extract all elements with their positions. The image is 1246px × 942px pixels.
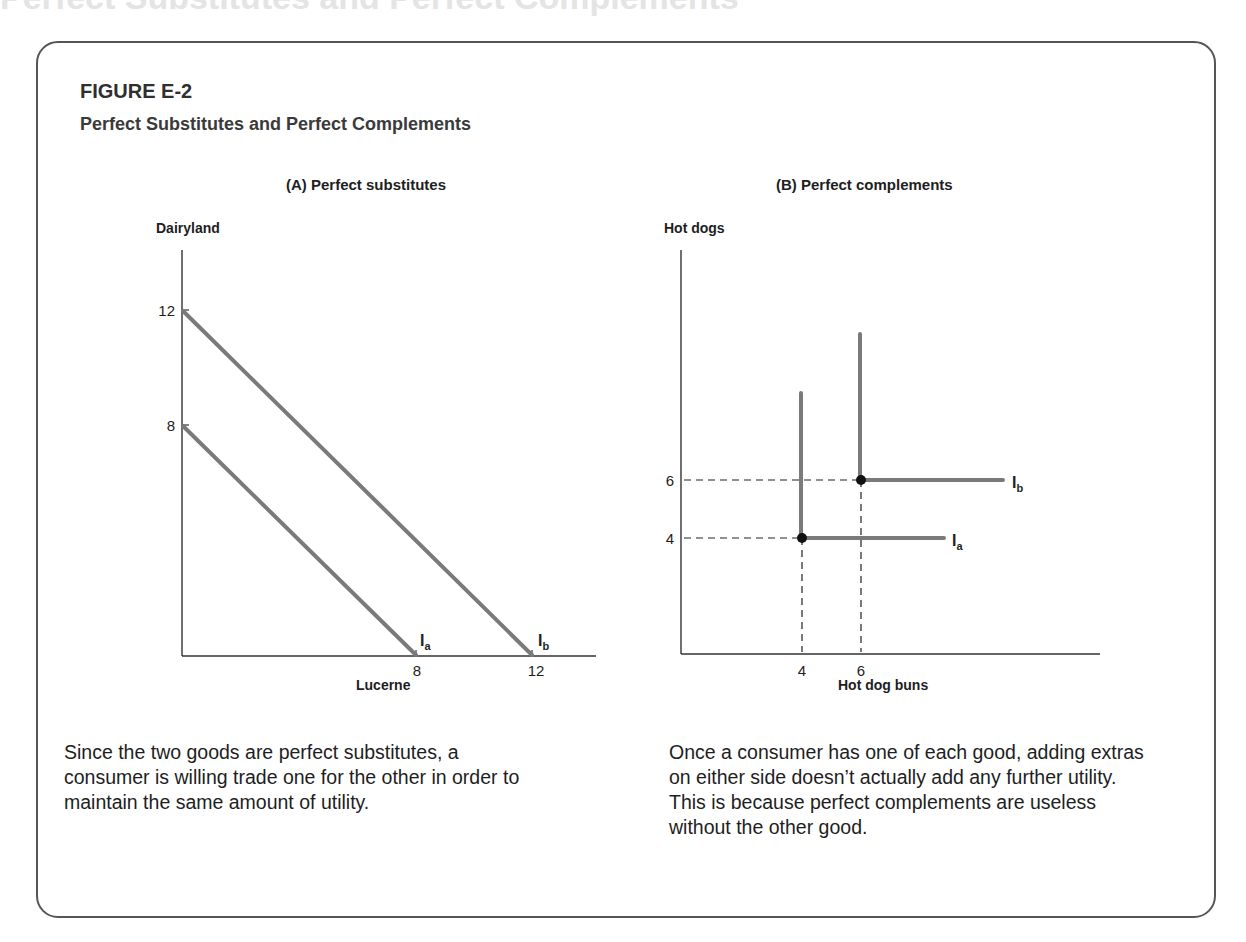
panel-b-x-tick-6: 6 — [857, 662, 865, 679]
panel-a-y-tick-8: 8 — [167, 417, 175, 434]
panel-b-y-tick-6: 6 — [666, 472, 674, 489]
panel-a-y-tick-12: 12 — [158, 302, 175, 319]
panel-b-chart: 6 4 4 6 Ia Ib — [666, 250, 1100, 679]
panel-b-label-ib: Ib — [1012, 474, 1023, 494]
panel-a-curve-ib — [183, 311, 532, 655]
panel-b-y-tick-4: 4 — [666, 530, 674, 547]
panel-b-x-tick-4: 4 — [798, 662, 806, 679]
panel-a-x-tick-8: 8 — [413, 662, 421, 679]
panel-a-curve-ia — [183, 426, 416, 655]
panel-b-label-ia: Ia — [952, 532, 963, 552]
panel-b-guide-lines — [684, 480, 861, 652]
panel-a-caption: Since the two goods are perfect substitu… — [64, 740, 534, 815]
panel-a-label-ib: Ib — [538, 632, 549, 652]
panel-a-label-ia: Ia — [420, 632, 431, 652]
panel-b-corner-dot-ib — [856, 475, 866, 485]
panel-b-corner-dot-ia — [797, 533, 807, 543]
panel-b-curve-ia — [801, 393, 944, 538]
panel-b-caption: Once a consumer has one of each good, ad… — [669, 740, 1149, 840]
panel-a-chart: 12 8 8 12 Ia Ib — [158, 250, 596, 679]
panel-a-x-tick-12: 12 — [528, 662, 545, 679]
panel-b-curve-ib — [860, 334, 1003, 480]
